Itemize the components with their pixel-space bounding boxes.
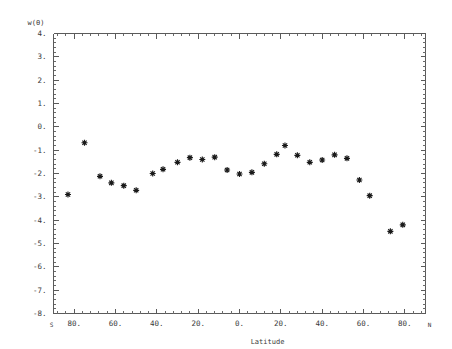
data-point-group bbox=[65, 140, 406, 235]
data-point bbox=[294, 152, 300, 158]
data-point bbox=[133, 187, 139, 193]
marker-center bbox=[135, 189, 137, 191]
y-tick-label: 2. bbox=[37, 76, 46, 85]
x-axis-title: Latitude bbox=[251, 338, 285, 346]
x-tick-label: 80. bbox=[67, 319, 81, 328]
marker-center bbox=[296, 154, 298, 156]
x-tick-label: 60. bbox=[357, 319, 371, 328]
data-point bbox=[160, 166, 166, 172]
data-point bbox=[237, 171, 243, 177]
marker-center bbox=[389, 230, 391, 232]
y-tick-label: 0. bbox=[37, 122, 46, 131]
data-point bbox=[65, 192, 71, 198]
x-tick-label: 40. bbox=[315, 319, 329, 328]
y-tick-label: -3. bbox=[33, 192, 47, 201]
x-tick-label: 0. bbox=[235, 319, 244, 328]
marker-center bbox=[333, 154, 335, 156]
marker-center bbox=[226, 169, 228, 171]
data-point bbox=[187, 155, 193, 161]
x-tick-label: 40. bbox=[150, 319, 164, 328]
data-point bbox=[344, 155, 350, 161]
y-tick-label: -4. bbox=[33, 216, 47, 225]
marker-center bbox=[99, 175, 101, 177]
data-point bbox=[199, 157, 205, 163]
marker-center bbox=[67, 193, 69, 195]
marker-center bbox=[123, 185, 125, 187]
marker-center bbox=[214, 156, 216, 158]
marker-center bbox=[321, 159, 323, 161]
x-tick-label: 80. bbox=[398, 319, 412, 328]
x-tick-label: 60. bbox=[109, 319, 123, 328]
data-point bbox=[282, 143, 288, 149]
marker-center bbox=[346, 157, 348, 159]
data-point bbox=[224, 167, 230, 173]
marker-center bbox=[238, 173, 240, 175]
data-point bbox=[274, 151, 280, 157]
marker-center bbox=[309, 161, 311, 163]
marker-center bbox=[369, 195, 371, 197]
marker-center bbox=[110, 182, 112, 184]
y-tick-label: -1. bbox=[33, 146, 47, 155]
marker-center bbox=[162, 168, 164, 170]
x-tick-label: 20. bbox=[191, 319, 205, 328]
marker-center bbox=[284, 144, 286, 146]
data-point bbox=[261, 161, 267, 167]
x-tick-label: 20. bbox=[274, 319, 288, 328]
y-tick-label: -8. bbox=[33, 309, 47, 318]
data-point bbox=[97, 173, 103, 179]
data-point bbox=[319, 157, 325, 163]
scatter-plot: 4.3.2.1.0.-1.-2.-3.-4.-5.-6.-7.-8.80.60.… bbox=[0, 0, 452, 349]
y-tick-label: -2. bbox=[33, 169, 47, 178]
x-axis-north-label: N bbox=[428, 321, 432, 328]
marker-center bbox=[152, 172, 154, 174]
marker-center bbox=[201, 158, 203, 160]
marker-center bbox=[176, 161, 178, 163]
y-tick-label: 3. bbox=[37, 52, 46, 61]
y-tick-label: 4. bbox=[37, 29, 46, 38]
marker-center bbox=[189, 157, 191, 159]
marker-center bbox=[83, 142, 85, 144]
data-point bbox=[249, 169, 255, 175]
data-point bbox=[400, 222, 406, 228]
data-point bbox=[108, 180, 114, 186]
data-point bbox=[387, 228, 393, 234]
data-point bbox=[82, 140, 88, 146]
y-tick-label: -6. bbox=[33, 262, 47, 271]
data-point bbox=[356, 177, 362, 183]
x-axis-south-label: S bbox=[50, 321, 54, 328]
data-point bbox=[150, 171, 156, 177]
marker-center bbox=[358, 179, 360, 181]
marker-center bbox=[276, 153, 278, 155]
data-point bbox=[367, 193, 373, 199]
data-point bbox=[307, 159, 313, 165]
data-point bbox=[121, 183, 127, 189]
marker-center bbox=[251, 171, 253, 173]
marker-center bbox=[402, 224, 404, 226]
y-tick-label: -5. bbox=[33, 239, 47, 248]
data-point bbox=[175, 159, 181, 165]
marker-center bbox=[263, 163, 265, 165]
data-point bbox=[212, 154, 218, 160]
data-point bbox=[332, 152, 338, 158]
chart-figure: 4.3.2.1.0.-1.-2.-3.-4.-5.-6.-7.-8.80.60.… bbox=[0, 0, 452, 349]
y-axis-title: w(θ) bbox=[28, 19, 45, 27]
y-tick-label: -7. bbox=[33, 286, 47, 295]
y-tick-label: 1. bbox=[37, 99, 46, 108]
